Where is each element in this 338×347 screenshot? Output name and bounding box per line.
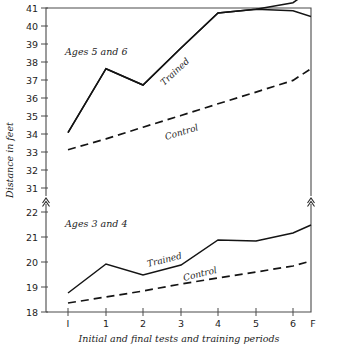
y-tick-label: 19 — [26, 282, 38, 293]
y-tick-label: 36 — [26, 93, 38, 104]
y-tick-label: 33 — [26, 147, 38, 158]
y-tick-label: 18 — [26, 307, 38, 318]
y-tick-label: 38 — [26, 57, 38, 68]
y-tick-label: 22 — [26, 207, 38, 218]
annotation-ages-5-and-6: Ages 5 and 6 — [64, 46, 127, 57]
x-tick-label: 5 — [253, 318, 259, 329]
x-tick-label: 3 — [178, 318, 184, 329]
x-tick-label: F — [310, 318, 315, 329]
x-tick-label: 6 — [290, 318, 296, 329]
x-tick-label: I — [67, 318, 70, 329]
y-tick-label: 21 — [26, 232, 38, 243]
y-tick-label: 39 — [26, 39, 38, 50]
y-tick-label: 40 — [26, 21, 38, 32]
y-tick-label: 41 — [26, 3, 38, 14]
chart-background — [0, 0, 338, 347]
x-tick-label: 1 — [103, 318, 109, 329]
y-tick-label: 34 — [26, 129, 38, 140]
y-tick-label: 37 — [26, 75, 38, 86]
x-axis-title: Initial and final tests and training per… — [78, 333, 280, 344]
y-axis-title: Distance in feet — [4, 122, 15, 199]
annotation-ages-3-and-4: Ages 3 and 4 — [64, 218, 127, 229]
chart-canvas: 41 40 39 38 37 36 35 34 33 32 31 22 21 2… — [0, 0, 338, 347]
y-tick-label: 35 — [26, 111, 38, 122]
y-tick-label: 32 — [26, 165, 38, 176]
x-tick-label: 2 — [140, 318, 146, 329]
y-tick-label: 20 — [26, 257, 38, 268]
x-tick-label: 4 — [215, 318, 221, 329]
y-tick-label: 31 — [26, 183, 38, 194]
chart-figure: 41 40 39 38 37 36 35 34 33 32 31 22 21 2… — [0, 0, 338, 347]
